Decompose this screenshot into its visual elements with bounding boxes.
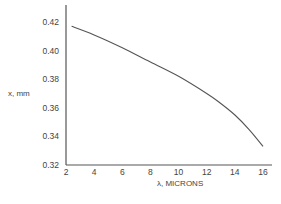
y-tick-label: 0.32: [42, 160, 59, 170]
x-tick-label: 4: [92, 167, 97, 177]
x-tick-label: 14: [230, 167, 240, 177]
chart: 0.320.340.360.380.400.42 246810121416 x,…: [0, 0, 281, 204]
y-axis-label: x, mm: [8, 89, 30, 98]
x-tick-label: 16: [258, 167, 268, 177]
y-tick-label: 0.38: [42, 74, 59, 84]
x-axis-label: λ, MICRONS: [157, 179, 203, 188]
y-tick-label: 0.40: [42, 46, 59, 56]
x-tick-label: 2: [64, 167, 69, 177]
data-line: [72, 26, 263, 146]
x-tick-label: 12: [202, 167, 212, 177]
y-tick-labels: 0.320.340.360.380.400.42: [42, 17, 59, 170]
x-tick-label: 8: [148, 167, 153, 177]
x-tick-label: 6: [120, 167, 125, 177]
axes: [66, 5, 272, 165]
x-tick-labels: 246810121416: [64, 167, 268, 177]
x-tick-label: 10: [174, 167, 184, 177]
y-tick-label: 0.34: [42, 131, 59, 141]
y-tick-label: 0.42: [42, 17, 59, 27]
y-tick-label: 0.36: [42, 103, 59, 113]
